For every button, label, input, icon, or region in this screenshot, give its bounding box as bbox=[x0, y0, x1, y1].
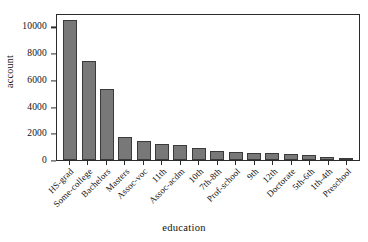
y-tick-label: 6000 bbox=[27, 76, 47, 86]
bar-slot bbox=[116, 15, 134, 160]
bar bbox=[173, 145, 187, 160]
x-label-slot: Preschool bbox=[338, 166, 357, 222]
x-tick-mark bbox=[143, 161, 144, 165]
bar bbox=[339, 158, 353, 160]
bar-slot bbox=[300, 15, 318, 160]
bar-slot bbox=[245, 15, 263, 160]
bar bbox=[118, 137, 132, 160]
bar-chart-figure: account 0200040006000800010000 HS-gradSo… bbox=[0, 0, 368, 242]
bar bbox=[284, 154, 298, 160]
bar-slot bbox=[318, 15, 336, 160]
bar-slot bbox=[135, 15, 153, 160]
bar-slot bbox=[153, 15, 171, 160]
x-tick-mark bbox=[87, 161, 88, 165]
bar-slot bbox=[171, 15, 189, 160]
bar bbox=[82, 61, 96, 160]
x-tick-mark bbox=[291, 161, 292, 165]
bar bbox=[265, 153, 279, 160]
x-tick-mark bbox=[161, 161, 162, 165]
bar-slot bbox=[226, 15, 244, 160]
bar bbox=[210, 151, 224, 160]
bar-slot bbox=[208, 15, 226, 160]
x-tick-label: 9th bbox=[246, 167, 261, 182]
bar-series bbox=[57, 15, 359, 160]
plot-area bbox=[56, 14, 360, 161]
bar-slot bbox=[98, 15, 116, 160]
x-label-slot: Bachelors bbox=[97, 166, 116, 222]
x-tick-mark bbox=[124, 161, 125, 165]
bar bbox=[302, 155, 316, 160]
bar bbox=[229, 152, 243, 160]
bar-slot bbox=[190, 15, 208, 160]
y-tick-label: 8000 bbox=[27, 49, 47, 59]
bar bbox=[137, 141, 151, 160]
x-tick-mark bbox=[198, 161, 199, 165]
x-tick-mark bbox=[328, 161, 329, 165]
x-tick-mark bbox=[254, 161, 255, 165]
y-tick-label: 10000 bbox=[22, 23, 47, 33]
x-label-slot: 10th bbox=[190, 166, 209, 222]
bar bbox=[63, 20, 77, 160]
x-tick-mark bbox=[235, 161, 236, 165]
x-tick-mark bbox=[106, 161, 107, 165]
x-label-slot: Prof-school bbox=[227, 166, 246, 222]
x-tick-mark bbox=[272, 161, 273, 165]
bar-slot bbox=[61, 15, 79, 160]
x-axis-tick-labels: HS-gradSome-collegeBachelorsMastersAssoc… bbox=[56, 166, 360, 222]
y-tick-label: 0 bbox=[42, 156, 47, 166]
bar bbox=[247, 153, 261, 160]
y-axis: account 0200040006000800010000 bbox=[0, 0, 56, 242]
bar-slot bbox=[79, 15, 97, 160]
x-label-slot: Assoc-acdm bbox=[171, 166, 190, 222]
x-axis-title: education bbox=[0, 222, 368, 233]
bar bbox=[320, 157, 334, 160]
bar bbox=[100, 89, 114, 160]
bar bbox=[192, 148, 206, 160]
bar-slot bbox=[282, 15, 300, 160]
x-tick-mark bbox=[217, 161, 218, 165]
x-tick-mark bbox=[346, 161, 347, 165]
y-axis-title: account bbox=[4, 55, 15, 88]
bar-slot bbox=[337, 15, 355, 160]
y-tick-label: 4000 bbox=[27, 103, 47, 113]
bar bbox=[155, 144, 169, 160]
x-label-slot: Doctorate bbox=[282, 166, 301, 222]
x-tick-mark bbox=[69, 161, 70, 165]
x-tick-mark bbox=[309, 161, 310, 165]
y-tick-label: 2000 bbox=[27, 130, 47, 140]
x-label-slot: 9th bbox=[245, 166, 264, 222]
x-label-slot: 5th-6th bbox=[301, 166, 320, 222]
bar-slot bbox=[263, 15, 281, 160]
x-tick-mark bbox=[180, 161, 181, 165]
